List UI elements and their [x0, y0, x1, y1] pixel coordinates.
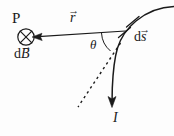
- ds-vector-label: d→s: [134, 30, 146, 44]
- physics-diagram-figure: P d→B →r θ d→s I: [0, 0, 174, 136]
- r-vector-arrow-mark: →: [68, 5, 79, 16]
- theta-angle-label: θ: [90, 38, 96, 51]
- ds-vector-arrow-mark: →: [139, 24, 150, 35]
- diagram-canvas: [0, 0, 174, 136]
- wire-tick-mark-upper: [127, 17, 140, 28]
- current-wire-path: [112, 7, 174, 100]
- db-vector-label: d→B: [14, 47, 30, 61]
- r-symbol-group: →r: [70, 11, 75, 25]
- db-symbol-group: →B: [21, 47, 30, 61]
- current-label: I: [113, 111, 118, 125]
- point-p-label: P: [12, 11, 20, 26]
- angle-arc: [102, 33, 111, 51]
- db-vector-arrow-mark: →: [21, 41, 32, 52]
- wire-tick-mark-lower: [119, 28, 131, 38]
- r-vector-label: →r: [70, 11, 75, 25]
- ds-symbol-group: →s: [141, 30, 146, 44]
- r-vector-line: [38, 31, 126, 37]
